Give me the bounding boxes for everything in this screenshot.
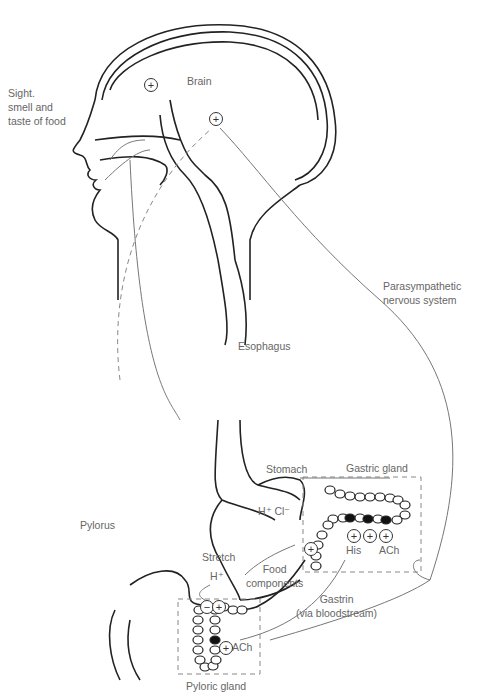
plus-icon-his: + xyxy=(347,529,361,543)
label-parasympathetic: Parasympathetic nervous system xyxy=(383,279,461,307)
label-ach-pyloric: ACh xyxy=(232,641,252,653)
label-hcl: H⁺ Cl⁻ xyxy=(258,505,290,517)
label-food-components: Food components xyxy=(246,562,303,590)
label-his: His xyxy=(346,544,361,556)
parasympathetic-path xyxy=(220,128,453,580)
label-esophagus: Esophagus xyxy=(238,340,291,352)
label-gastric-gland: Gastric gland xyxy=(346,462,408,474)
label-pyloric-gland: Pyloric gland xyxy=(186,680,246,692)
label-stomach: Stomach xyxy=(266,463,307,475)
plus-icon-brain-vagal: + xyxy=(209,112,223,126)
plus-icon-mid: + xyxy=(363,529,377,543)
skull-outline xyxy=(95,25,336,185)
label-stretch: Stretch xyxy=(202,551,235,563)
label-gastrin: Gastrin (via bloodstream) xyxy=(296,592,377,620)
stomach xyxy=(210,500,240,600)
plus-icon-food: + xyxy=(304,542,318,556)
label-brain: Brain xyxy=(187,75,212,87)
plus-icon-ach-pyloric: + xyxy=(219,641,233,655)
plus-icon-ach: + xyxy=(379,529,393,543)
face-profile xyxy=(73,100,118,300)
label-sight: Sight. smell and taste of food xyxy=(8,86,66,128)
label-ach-gastric: ACh xyxy=(379,544,399,556)
plus-icon-pyloric: + xyxy=(212,600,226,614)
label-pylorus: Pylorus xyxy=(80,519,115,531)
esophagus xyxy=(218,260,227,345)
label-h-plus: H⁺ xyxy=(210,570,224,582)
plus-icon-brain-senses: + xyxy=(144,78,158,92)
